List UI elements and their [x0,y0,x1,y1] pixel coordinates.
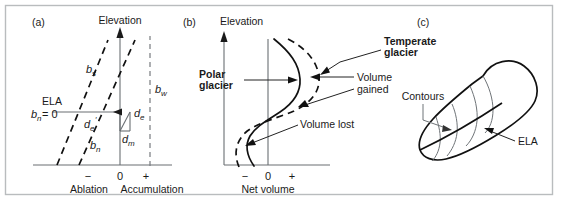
panel-b-temperate-glacier-leader [326,50,381,71]
panel-c-contour-2 [466,86,477,146]
panel-b-tick-zero: 0 [265,170,271,182]
panel-a-label-bs: b s [86,63,96,78]
panel-a-bs-subscript: s [92,69,96,78]
panel-a-bw-subscript: w [161,89,168,98]
panel-b-volume-gained-arrowhead [310,74,320,81]
panel-a-de-prime-subscript: e [90,124,95,133]
panel-c-contours-label: Contours [402,90,445,102]
panel-a-zero-balance-label: b n = 0 [31,108,58,123]
panel-b-y-axis-label: Elevation [220,15,263,27]
panel-a-bn-curve-subscript: n [96,145,101,154]
panel-b: (b) − 0 + Elevation Net volume Polar gla… [183,15,436,195]
panel-c-ela-label: ELA [518,135,538,147]
panel-b-x-axis-label: Net volume [241,183,294,195]
panel-a-label-bn: b n [90,139,101,154]
figure-canvas: (a) Elevation − 0 [0,0,568,210]
panel-b-volume-lost-label: Volume lost [300,118,354,130]
panel-b-polar-glacier-line2: glacier [199,79,233,91]
panel-b-temperate-glacier-line2: glacier [384,46,418,58]
panel-b-tick-minus: − [242,170,248,182]
panel-a-label-dm: d m [122,133,135,148]
figure-root: (a) Elevation − 0 [0,0,568,210]
panel-b-volume-gained-arrowhead-2 [298,100,309,107]
panel-a-de-prime-mark: ′ [95,115,97,124]
panel-b-annotation-temperate-glacier: Temperate glacier [320,35,436,75]
panel-c-contour-1 [483,76,493,133]
panel-a-label-bw: b w [155,83,168,98]
panel-a-label-de: d e [134,107,145,122]
panel-a-curve-bn [79,40,135,165]
panel-a-ela-label: ELA [42,95,62,107]
panel-b-volume-gained-line1: Volume [357,71,392,83]
panel-a-y-axis-arrowhead [116,27,123,38]
panel-a-tick-minus: − [85,170,91,182]
panel-b-tag: (b) [183,16,196,28]
panel-a-tick-zero: 0 [117,170,123,182]
panel-a-tick-plus: + [143,170,149,182]
panel-c-contours-arrowhead [442,125,452,132]
panel-b-volume-lost-leader [252,125,298,143]
panel-b-polar-glacier-arrowhead [288,77,298,84]
panel-a: (a) Elevation − 0 [31,14,184,195]
panel-a-y-axis-label: Elevation [98,14,141,26]
panel-b-temperate-glacier-arrowhead [320,67,330,76]
panel-a-bn-equals: = 0 [42,108,58,120]
figure-frame [6,6,553,195]
panel-b-annotation-volume-lost: Volume lost [245,118,354,146]
panel-b-tick-plus: + [289,170,295,182]
panel-a-x-axis-label-left: Ablation [70,183,108,195]
panel-c-contours-leader [423,104,446,128]
panel-b-annotation-volume-gained: Volume gained [298,71,392,107]
panel-b-curve-polar-glacier [247,39,300,166]
panel-a-de-subscript: e [140,113,145,122]
panel-b-volume-gained-line2: gained [357,83,389,95]
panel-a-dm-subscript: m [128,139,135,148]
panel-a-ela-arrowhead [113,109,122,116]
panel-c-tag: (c) [417,16,429,28]
panel-a-x-axis-label-right: Accumulation [120,183,183,195]
panel-b-y-axis-arrowhead [220,31,227,42]
panel-a-tag: (a) [32,16,45,28]
panel-b-annotation-polar-glacier: Polar glacier [199,68,298,91]
